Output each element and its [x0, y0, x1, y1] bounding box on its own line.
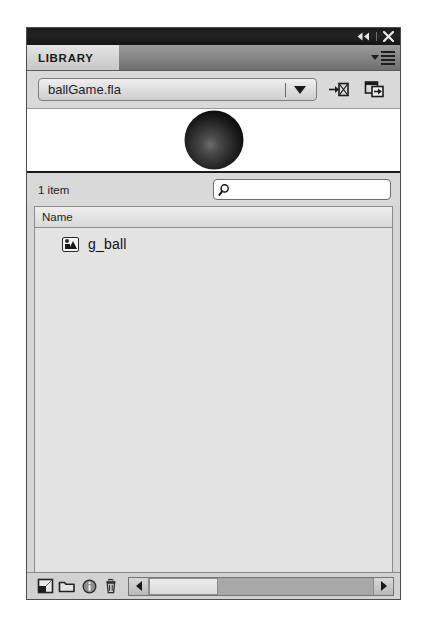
horizontal-scrollbar[interactable]: [128, 577, 394, 596]
chevron-down-icon[interactable]: [294, 86, 306, 94]
panel-title-bar: [27, 28, 400, 45]
panel-menu-icon[interactable]: [366, 45, 400, 70]
tab-library-label: LIBRARY: [38, 52, 94, 64]
tab-bar-filler: [119, 45, 366, 70]
panel-menu-triangle-icon: [371, 55, 379, 60]
document-selector-row: ballGame.fla: [27, 71, 400, 109]
titlebar-divider: [376, 32, 377, 41]
library-panel: LIBRARY ballGame.fla: [26, 27, 401, 600]
document-name-label: ballGame.fla: [39, 82, 285, 97]
scrollbar-thumb[interactable]: [149, 578, 218, 595]
tab-library[interactable]: LIBRARY: [27, 45, 119, 70]
panel-tab-bar: LIBRARY: [27, 45, 400, 71]
column-header-name-label: Name: [42, 211, 73, 223]
library-list-body[interactable]: g_ball: [35, 228, 392, 572]
symbol-preview-area: [27, 109, 400, 173]
library-list: Name g_ball: [34, 206, 393, 572]
sphere-preview: [184, 111, 243, 170]
new-folder-icon[interactable]: [56, 576, 78, 597]
scroll-left-icon[interactable]: [129, 578, 149, 595]
library-bottom-toolbar: [27, 572, 400, 599]
new-library-panel-icon[interactable]: [361, 78, 389, 102]
scroll-right-icon[interactable]: [373, 578, 393, 595]
document-combo[interactable]: ballGame.fla: [38, 78, 317, 101]
search-icon: [218, 182, 232, 198]
combo-divider: [285, 83, 286, 97]
delete-trash-icon[interactable]: [100, 576, 122, 597]
list-item[interactable]: g_ball: [35, 233, 392, 255]
graphic-symbol-icon: [62, 237, 79, 252]
pin-current-library-icon[interactable]: [325, 78, 353, 102]
search-input[interactable]: [232, 184, 390, 196]
close-icon[interactable]: [381, 30, 396, 43]
collapse-to-icons-icon[interactable]: [355, 30, 372, 43]
column-header-name[interactable]: Name: [35, 207, 392, 228]
search-box[interactable]: [213, 179, 391, 200]
new-symbol-icon[interactable]: [34, 576, 56, 597]
item-count-label: 1 item: [38, 184, 69, 196]
panel-menu-lines-icon: [381, 51, 395, 65]
properties-info-icon[interactable]: [78, 576, 100, 597]
search-row: 1 item: [27, 173, 400, 206]
list-item-label: g_ball: [88, 236, 127, 252]
scrollbar-track[interactable]: [149, 578, 373, 595]
